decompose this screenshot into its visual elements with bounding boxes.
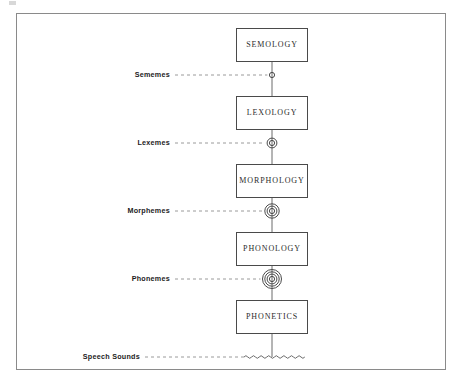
unit-label-speech-sounds: Speech Sounds: [40, 353, 140, 360]
stratum-box-label: PHONOLOGY: [243, 245, 301, 253]
unit-label-sememes: Sememes: [40, 71, 170, 78]
unit-label-phonemes: Phonemes: [40, 275, 170, 282]
figure-canvas: SEMOLOGYLEXOLOGYMORPHOLOGYPHONOLOGYPHONE…: [0, 0, 464, 389]
stratum-box-label: PHONETICS: [246, 313, 298, 321]
stratification-diagram-svg: [0, 0, 464, 389]
wave-node[interactable]: [244, 356, 305, 359]
unit-label-lexemes: Lexemes: [40, 139, 170, 146]
stratum-box-morphology[interactable]: MORPHOLOGY: [236, 164, 308, 198]
stratum-box-label: MORPHOLOGY: [239, 177, 304, 185]
stratum-box-phonology[interactable]: PHONOLOGY: [236, 232, 308, 266]
unit-label-morphemes: Morphemes: [40, 207, 170, 214]
stratum-box-label: SEMOLOGY: [246, 41, 298, 49]
stratum-box-label: LEXOLOGY: [247, 109, 298, 117]
stratum-box-phonetics[interactable]: PHONETICS: [236, 300, 308, 334]
stratum-box-semology[interactable]: SEMOLOGY: [236, 28, 308, 62]
stratum-box-lexology[interactable]: LEXOLOGY: [236, 96, 308, 130]
